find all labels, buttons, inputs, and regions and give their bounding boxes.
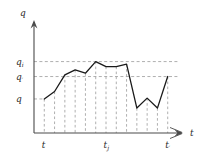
x-tick-labels: ttjt′ [42,140,171,152]
x-tick-sub: ′ [169,144,171,151]
x-axis-title: t [190,128,194,138]
x-axis-arrow-upper-stroke [170,128,182,133]
y-tick-label-q: q [16,94,22,104]
x-axis-title-group: t [190,128,194,138]
y-axis-title-group: q [20,8,26,18]
axes [31,20,183,139]
vertical-guide-lines [44,62,167,133]
line-chart: q t qiq′q ttjt′ [0,0,201,160]
y-tick-label-q_prime: q′ [16,72,24,83]
x-tick-label-t_j: tj [104,140,110,152]
figure-container: q t qiq′q ttjt′ [0,0,201,160]
y-tick-label-q_i: qi [16,57,24,68]
x-tick-label-t_prime: t′ [165,140,171,151]
y-axis-title: q [20,8,26,18]
x-tick-sub: j [105,144,109,152]
y-tick-sub: i [22,61,24,68]
y-tick-sub: ′ [22,76,24,83]
x-axis-arrow-lower-stroke [170,134,182,139]
y-tick-labels: qiq′q [16,57,24,104]
x-tick-label-t: t [42,140,46,150]
